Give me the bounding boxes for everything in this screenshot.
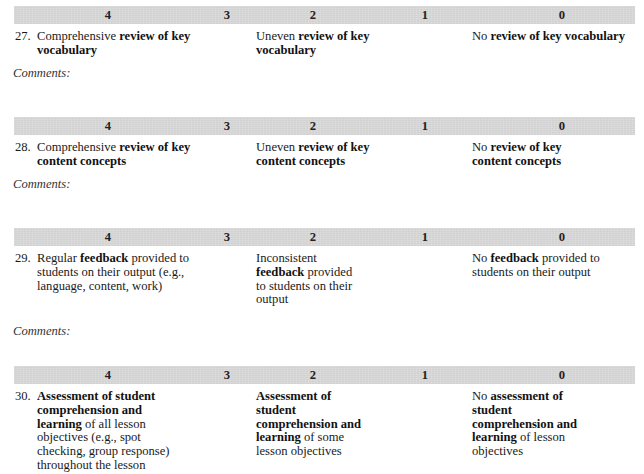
- score-1: 1: [422, 8, 428, 22]
- score-0: 0: [559, 230, 565, 244]
- score-3: 3: [224, 8, 230, 22]
- score-scale-bar: 4 3 2 1 0: [14, 228, 635, 246]
- score-2: 2: [310, 230, 316, 244]
- score-0: 0: [559, 8, 565, 22]
- score-0: 0: [559, 119, 565, 133]
- level-2-descriptor: Uneven review of key content concepts: [256, 141, 386, 169]
- score-3: 3: [224, 368, 230, 382]
- score-2: 2: [310, 119, 316, 133]
- score-4: 4: [105, 368, 111, 382]
- level-2-descriptor: Assessment of student comprehension and …: [256, 390, 368, 459]
- score-1: 1: [422, 230, 428, 244]
- level-4-descriptor: 30. Assessment of student comprehension …: [15, 390, 215, 473]
- comments-label: Comments:: [13, 178, 70, 192]
- level-2-descriptor: Uneven review of key vocabulary: [256, 30, 386, 58]
- score-1: 1: [422, 119, 428, 133]
- score-4: 4: [105, 119, 111, 133]
- item-number: 30.: [15, 390, 31, 404]
- score-3: 3: [224, 230, 230, 244]
- level-4-descriptor: 29. Regular feedback provided to student…: [15, 252, 215, 293]
- level-0-descriptor: No feedback provided to students on thei…: [472, 252, 602, 280]
- score-0: 0: [559, 368, 565, 382]
- score-scale-bar: 4 3 2 1 0: [14, 6, 635, 24]
- score-4: 4: [105, 230, 111, 244]
- level-0-descriptor: No review of key content concepts: [472, 141, 602, 169]
- level-0-descriptor: No assessment of student comprehension a…: [472, 390, 594, 459]
- score-scale-bar: 4 3 2 1 0: [14, 117, 635, 135]
- item-number: 27.: [15, 30, 31, 44]
- level-4-descriptor: 28. Comprehensive review of key content …: [15, 141, 215, 169]
- score-scale-bar: 4 3 2 1 0: [14, 366, 635, 384]
- item-number: 29.: [15, 252, 31, 266]
- score-4: 4: [105, 8, 111, 22]
- item-number: 28.: [15, 141, 31, 155]
- comments-label: Comments:: [13, 325, 70, 339]
- score-1: 1: [422, 368, 428, 382]
- score-3: 3: [224, 119, 230, 133]
- score-2: 2: [310, 8, 316, 22]
- level-4-descriptor: 27. Comprehensive review of key vocabula…: [15, 30, 215, 58]
- level-0-descriptor: No review of key vocabulary: [472, 30, 642, 44]
- score-2: 2: [310, 368, 316, 382]
- comments-label: Comments:: [13, 67, 70, 81]
- level-2-descriptor: Inconsistent feedback provided to studen…: [256, 252, 356, 307]
